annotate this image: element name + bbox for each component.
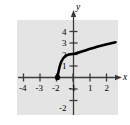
x-tick-label-neg2: -2 — [52, 84, 60, 93]
x-tick-label-neg4: -4 — [19, 84, 27, 93]
y-tick-label-4: 4 — [62, 28, 67, 37]
x-tick-label-2: 2 — [105, 84, 110, 93]
x-tick-label-neg1: -1 — [69, 84, 77, 93]
graph-figure: -4 -3 -2 -1 1 2 4 3 2 1 -2 y x — [0, 0, 130, 125]
y-tick-label-2: 2 — [62, 51, 67, 60]
curve-endpoint-dot — [55, 75, 60, 80]
x-tick-label-1: 1 — [88, 84, 93, 93]
x-tick-label-neg3: -3 — [36, 84, 44, 93]
y-tick-label-neg2: -2 — [59, 104, 67, 113]
x-axis-label: x — [123, 73, 127, 83]
x-axis-arrow — [115, 75, 122, 80]
y-axis-label: y — [76, 3, 80, 13]
y-tick-label-1: 1 — [62, 62, 67, 71]
y-tick-label-3: 3 — [62, 39, 67, 48]
